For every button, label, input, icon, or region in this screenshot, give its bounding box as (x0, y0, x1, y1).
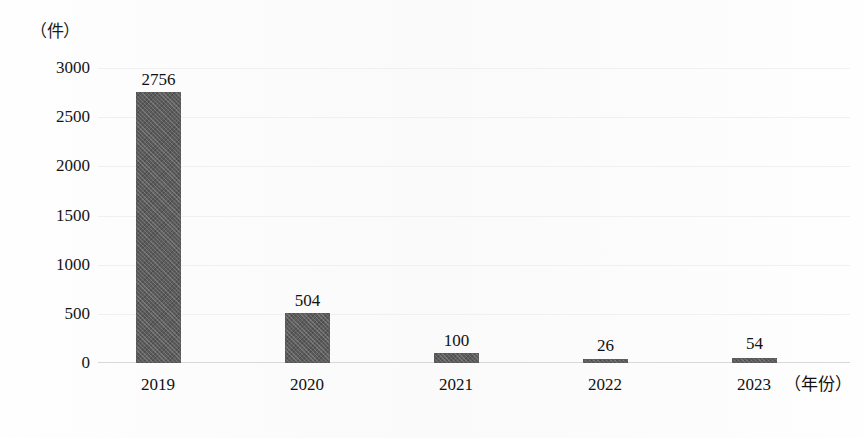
x-tick-label-2019: 2019 (103, 375, 213, 395)
x-axis-unit-label: （年份） (784, 375, 852, 395)
bar-value-label-2019: 2756 (119, 71, 199, 88)
y-tick-label: 1500 (32, 207, 90, 224)
y-tick-label: 2000 (32, 157, 90, 174)
y-tick-label: 2500 (32, 108, 90, 125)
gridline-2000 (98, 166, 850, 167)
y-tick-label: 0 (32, 354, 90, 371)
y-tick-label: 1000 (32, 256, 90, 273)
x-tick-label-2022: 2022 (550, 375, 660, 395)
bar-2022[interactable] (583, 359, 628, 363)
bar-2019[interactable] (136, 92, 181, 363)
y-tick-label: 500 (32, 305, 90, 322)
y-axis-tick-labels: 3000 2500 2000 1500 1000 500 0 (28, 68, 90, 363)
bar-value-label-2020: 504 (268, 292, 348, 309)
bar-value-label-2021: 100 (417, 332, 497, 349)
gridline-2500 (98, 117, 850, 118)
bar-2021[interactable] (434, 353, 479, 363)
bar-2020[interactable] (285, 313, 330, 363)
x-tick-label-2021: 2021 (401, 375, 511, 395)
gridline-3000 (98, 68, 850, 69)
y-axis-unit-label: （件） (30, 17, 80, 42)
bar-value-label-2023: 54 (715, 335, 795, 352)
gridline-1500 (98, 216, 850, 217)
gridline-500 (98, 314, 850, 315)
x-tick-label-2020: 2020 (252, 375, 362, 395)
y-tick-label: 3000 (32, 59, 90, 76)
bar-value-label-2022: 26 (566, 337, 646, 354)
bar-2023[interactable] (732, 358, 777, 363)
bar-chart: （件） 3000 2500 2000 1500 1000 500 0 2756 … (0, 0, 863, 438)
x-axis-tick-labels: 2019 2020 2021 2022 2023 （年份） (98, 375, 850, 403)
plot-area: 2756 504 100 26 54 (98, 68, 850, 363)
gridline-1000 (98, 265, 850, 266)
